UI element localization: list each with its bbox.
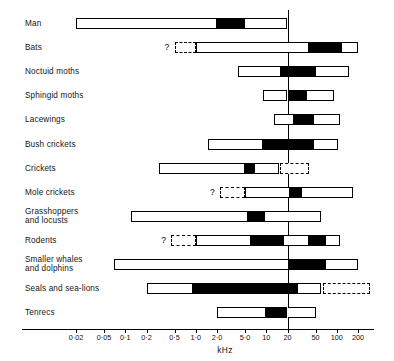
x-axis-tick-label: 5·0 [240,334,251,342]
x-axis-tick-label: 0·2 [141,334,152,342]
x-axis-tick-label: 1·0 [190,334,201,342]
bar-segment-white [255,163,278,174]
bar-segment-black [281,66,316,77]
bar-segment-white [316,66,350,77]
bar-row [0,211,394,222]
bar-row [0,307,394,318]
uncertain-marker: ? [165,42,170,53]
bar-segment-black [289,259,326,270]
bar-segment-black [263,139,314,150]
bar-segment-dashed [323,283,370,294]
bar-segment-white [131,211,248,222]
bar-segment-white [238,66,280,77]
bar-segment-white [208,139,263,150]
bar-segment-black [245,163,255,174]
x-axis-tick-label: 200 [352,334,364,342]
x-axis-tick-label: 0·02 [69,334,84,342]
bar-segment-white [298,283,321,294]
bar-row [0,18,394,29]
bar-segment-white [76,18,217,29]
bar-segment-black [294,114,313,125]
bar-segment-white [263,90,287,101]
bar-row [0,139,394,150]
bar-segment-white [217,307,266,318]
bar-segment-black [248,211,265,222]
bar-segment-black [193,283,298,294]
bar-segment-white [265,211,321,222]
bar-segment-black [251,235,285,246]
x-axis-tick-label: 10 [262,334,270,342]
bar-segment-white [245,187,290,198]
bar-row [0,283,394,294]
bar-segment-white [274,114,294,125]
bar-row [0,66,394,77]
bar-row [0,259,394,270]
bar-row: ? [0,235,394,246]
x-axis-tick-label: 100 [331,334,343,342]
bar-segment-white [196,42,309,53]
uncertain-marker: ? [161,235,166,246]
bar-segment-black [290,187,301,198]
bar-segment-white [288,307,316,318]
bar-row [0,90,394,101]
bar-segment-black [309,235,326,246]
bar-segment-white [147,283,193,294]
x-axis-tick-label: 0·1 [120,334,131,342]
bar-row [0,163,394,174]
x-axis-tick-label: 50 [311,334,319,342]
bar-segment-dashed [171,235,195,246]
bar-segment-white [159,163,245,174]
bar-segment-white [314,139,339,150]
bar-segment-dashed [280,163,309,174]
bar-segment-white [284,235,308,246]
bar-segment-white [114,259,289,270]
bar-segment-black [288,90,308,101]
bar-segment-white [342,42,358,53]
frequency-range-chart: kHz 0·020·050·10·20·51·02·05·01020501002… [0,0,394,361]
x-axis-line [22,329,374,330]
x-axis-tick-label: 2·0 [212,334,223,342]
x-axis-tick-label: 0·05 [97,334,112,342]
bar-row: ? [0,187,394,198]
bar-segment-dashed [175,42,196,53]
x-axis-title: kHz [217,345,233,355]
bar-row [0,114,394,125]
uncertain-marker: ? [210,187,215,198]
bar-segment-black [309,42,343,53]
bar-segment-white [196,235,251,246]
bar-segment-black [266,307,287,318]
bar-segment-white [307,90,333,101]
bar-segment-white [302,187,353,198]
bar-segment-white [326,235,340,246]
x-axis-tick-label: 0·5 [169,334,180,342]
bar-segment-white [326,259,358,270]
bar-segment-white [245,18,287,29]
bar-segment-black [217,18,245,29]
bar-segment-white [314,114,340,125]
bar-row: ? [0,42,394,53]
bar-segment-dashed [220,187,245,198]
x-axis-tick-label: 20 [283,334,291,342]
